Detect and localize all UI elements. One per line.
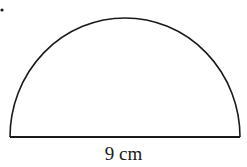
bullet-dot [0,8,3,11]
semicircle-figure [0,0,247,167]
semicircle-arc [10,18,240,137]
diameter-label: 9 cm [0,143,247,165]
